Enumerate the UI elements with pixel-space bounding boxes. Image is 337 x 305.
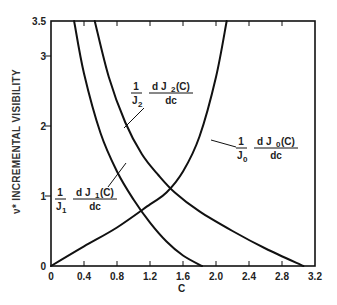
x-tick-label: 3.2 [308, 271, 322, 282]
chart: 00.40.81.21.62.02.42.83.2 01233.5 1J0d J… [0, 0, 337, 305]
curve-j2 [95, 21, 304, 266]
svg-text:1: 1 [133, 81, 139, 92]
x-tick-label: 0 [48, 271, 54, 282]
y-tick-label: 1 [40, 191, 46, 202]
svg-text:1: 1 [62, 206, 67, 215]
svg-text:2: 2 [138, 100, 143, 109]
y-axis-ticks: 01233.5 [32, 16, 51, 272]
curve-j1 [74, 21, 202, 266]
x-tick-label: 2.8 [275, 271, 289, 282]
x-tick-label: 2.0 [209, 271, 223, 282]
svg-text:0: 0 [243, 155, 248, 164]
x-axis-label: C [178, 283, 185, 294]
svg-text:J: J [56, 201, 62, 212]
curve-j0 [51, 21, 227, 266]
label-j0: 1J0d J0(C)dc [211, 136, 298, 164]
y-tick-label: 0 [40, 261, 46, 272]
svg-text:1: 1 [57, 187, 63, 198]
x-tick-label: 0.4 [77, 271, 91, 282]
y-tick-label: 3 [40, 51, 46, 62]
y-tick-label: 3.5 [32, 16, 46, 27]
svg-text:1: 1 [238, 136, 244, 147]
svg-text:(C): (C) [281, 136, 295, 147]
svg-text:dc: dc [89, 201, 101, 212]
svg-text:dc: dc [165, 95, 177, 106]
svg-text:(C): (C) [100, 187, 114, 198]
x-tick-label: 1.2 [143, 271, 157, 282]
y-axis-label: ν* INCREMENTAL VISIBILITY [11, 52, 22, 232]
svg-text:d J: d J [76, 187, 90, 198]
svg-text:d J: d J [257, 136, 271, 147]
y-tick-label: 2 [40, 121, 46, 132]
x-tick-label: 1.6 [176, 271, 190, 282]
label-j1: 1J1d J1(C)dc [55, 163, 126, 215]
svg-text:J: J [237, 150, 243, 161]
x-tick-label: 0.8 [110, 271, 124, 282]
svg-text:d J: d J [152, 81, 166, 92]
svg-text:J: J [132, 95, 138, 106]
svg-text:(C): (C) [176, 81, 190, 92]
x-tick-label: 2.4 [242, 271, 256, 282]
label-j2: 1J2d J2(C)dc [124, 81, 193, 128]
svg-text:dc: dc [270, 150, 282, 161]
